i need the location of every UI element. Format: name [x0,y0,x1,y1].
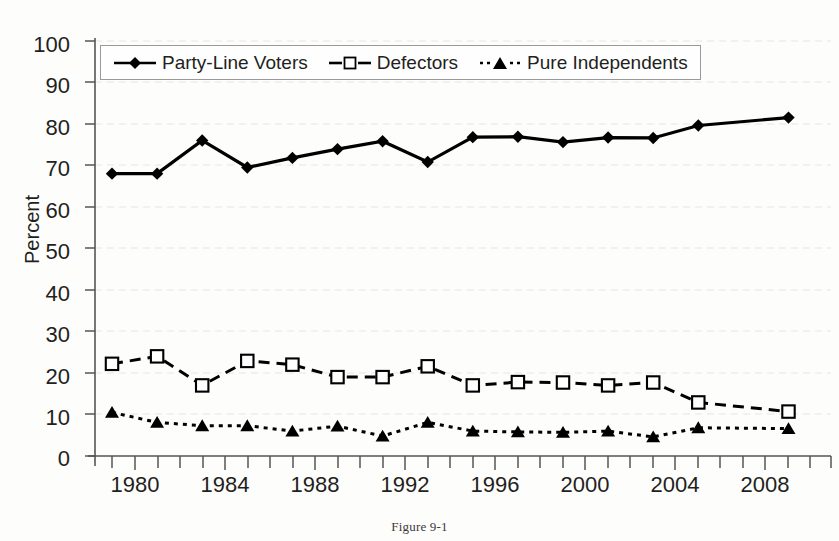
data-point-marker [782,111,794,123]
figure-caption: Figure 9-1 [0,519,839,535]
series-defectors [106,350,795,418]
data-point-marker [512,131,524,143]
y-axis-ticks [85,41,95,456]
data-point-marker [647,376,659,388]
data-point-marker [422,156,434,168]
plot-area [0,0,839,541]
data-point-marker [285,425,299,437]
data-point-marker [602,379,614,391]
gridlines [95,41,831,414]
data-point-marker [106,167,118,179]
data-point-marker [557,136,569,148]
data-point-marker [467,131,479,143]
legend-entry-pure-independents: Pure Independents [478,53,688,72]
data-point-marker [376,135,388,147]
legend-entry-defectors: Defectors [328,53,458,72]
data-point-marker [467,379,479,391]
data-point-marker [692,119,704,131]
data-point-marker [286,152,298,164]
data-point-marker [602,131,614,143]
series-party-line-voters [106,111,795,179]
data-point-marker [151,350,163,362]
series-pure-independents [105,406,796,442]
data-point-marker [422,360,434,372]
data-point-marker [692,396,704,408]
series-line [112,412,789,437]
legend-swatch-solid-diamond [113,55,157,71]
legend-label-defectors: Defectors [377,53,458,72]
data-point-marker [331,371,343,383]
data-point-marker [512,376,524,388]
series-line [112,356,789,411]
data-point-marker [557,376,569,388]
data-point-marker [376,430,390,442]
data-point-marker [196,379,208,391]
data-point-marker [150,416,164,428]
data-point-marker [376,371,388,383]
data-point-marker [241,355,253,367]
legend-label-party-line-voters: Party-Line Voters [162,53,308,72]
x-axis-ticks [112,456,831,470]
figure-9-1: Percent 0 10 20 30 40 50 60 70 80 90 100… [0,0,839,541]
data-point-marker [195,419,209,431]
series-layer [105,111,796,442]
legend-swatch-dashed-square [328,55,372,71]
data-point-marker [331,420,345,432]
data-point-marker [106,358,118,370]
data-point-marker [782,405,794,417]
data-point-marker [240,419,254,431]
legend-label-pure-independents: Pure Independents [527,53,688,72]
chart-legend: Party-Line Voters Defectors Pure Indepen… [100,45,701,80]
data-point-marker [286,358,298,370]
data-point-marker [331,143,343,155]
data-point-marker [647,132,659,144]
legend-swatch-dotted-triangle [478,55,522,71]
data-point-marker [105,406,119,418]
legend-entry-party-line-voters: Party-Line Voters [113,53,308,72]
